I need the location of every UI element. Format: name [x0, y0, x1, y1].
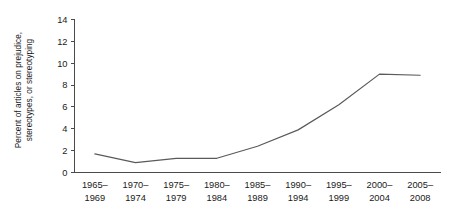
line-chart-figure: Percent of articles on prejudice, stereo… — [0, 0, 449, 212]
x-axis-tick-labels: 1965–19691970–19741975–19791980–19841985… — [82, 180, 434, 203]
y-axis-tick-label: 14 — [57, 15, 67, 25]
x-axis-tick-label: 1995–1999 — [326, 180, 353, 203]
y-axis-tick-label: 4 — [62, 124, 67, 134]
data-series-line — [95, 74, 420, 163]
x-axis-tick-label: 2005–2008 — [407, 180, 434, 203]
x-axis-tick-label: 1985–1989 — [245, 180, 272, 203]
y-axis-tick-marks — [71, 20, 75, 173]
x-axis-tick-label: 1980–1984 — [204, 180, 231, 203]
plot-area: 02468101214 1965–19691970–19741975–19791… — [0, 0, 449, 212]
y-axis-tick-label: 6 — [62, 102, 67, 112]
x-axis-tick-label: 1970–1974 — [123, 180, 150, 203]
y-axis-tick-label: 10 — [57, 59, 67, 69]
x-axis-tick-label: 2000–2004 — [367, 180, 394, 203]
y-axis-tick-label: 0 — [62, 168, 67, 178]
x-axis-tick-label: 1965–1969 — [82, 180, 109, 203]
y-axis-tick-label: 12 — [57, 37, 67, 47]
x-axis-tick-label: 1990–1994 — [285, 180, 312, 203]
y-axis-tick-labels: 02468101214 — [57, 15, 67, 178]
y-axis-tick-label: 2 — [62, 146, 67, 156]
x-axis-tick-label: 1975–1979 — [163, 180, 190, 203]
y-axis-tick-label: 8 — [62, 80, 67, 90]
